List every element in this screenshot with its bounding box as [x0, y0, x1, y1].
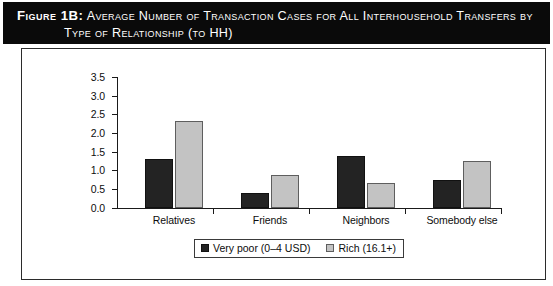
- y-axis-line: [117, 77, 118, 209]
- x-label-somebody-else: Somebody else: [407, 214, 517, 226]
- x-label-friends: Friends: [215, 214, 325, 226]
- chart-frame: 3.5 3.0 2.5 2.0 1.5 1.0 0.5 0.0: [21, 48, 546, 280]
- legend-swatch-icon-rich: [326, 244, 334, 252]
- bar-group-somebody-else: [427, 76, 497, 208]
- bar-group-relatives: [139, 76, 209, 208]
- figure-title-line-2: Type of Relationship (to HH): [17, 25, 542, 42]
- y-tick-2.5: 2.5: [112, 114, 117, 115]
- legend-label-very-poor: Very poor (0–4 USD): [213, 242, 310, 254]
- y-tick-label: 0.5: [91, 183, 105, 195]
- bar-very-poor-friends: [241, 193, 269, 207]
- y-tick-1.5: 1.5: [112, 152, 117, 153]
- x-label-relatives: Relatives: [119, 214, 229, 226]
- y-tick-0.5: 0.5: [112, 189, 117, 190]
- y-tick-0.0: 0.0: [112, 208, 117, 209]
- y-tick-label: 1.5: [91, 146, 105, 158]
- legend-swatch-icon-very-poor: [201, 244, 209, 252]
- bar-group-neighbors: [331, 76, 401, 208]
- bar-group-friends: [235, 76, 305, 208]
- y-tick-label: 2.0: [91, 127, 105, 139]
- y-tick-label: 3.0: [91, 90, 105, 102]
- y-tick-label: 0.0: [91, 202, 105, 214]
- figure-title-banner: Figure 1B: Average Number of Transaction…: [3, 2, 550, 44]
- chart-legend: Very poor (0–4 USD) Rich (16.1+): [194, 239, 404, 258]
- bar-very-poor-somebody-else: [433, 180, 461, 208]
- bar-very-poor-relatives: [145, 159, 173, 208]
- figure-label: Figure 1B:: [17, 8, 83, 23]
- legend-item-very-poor: Very poor (0–4 USD): [201, 242, 310, 254]
- y-tick-3.0: 3.0: [112, 96, 117, 97]
- bar-rich-neighbors: [367, 183, 395, 208]
- figure-container: Figure 1B: Average Number of Transaction…: [0, 0, 553, 286]
- legend-label-rich: Rich (16.1+): [338, 242, 395, 254]
- bar-very-poor-neighbors: [337, 156, 365, 207]
- bar-rich-friends: [271, 175, 299, 207]
- figure-title-line-1: Figure 1B: Average Number of Transaction…: [17, 7, 542, 25]
- legend-item-rich: Rich (16.1+): [326, 242, 395, 254]
- y-tick-label: 3.5: [91, 71, 105, 83]
- plot-area: 3.5 3.0 2.5 2.0 1.5 1.0 0.5 0.0: [117, 77, 502, 209]
- bar-rich-somebody-else: [463, 161, 491, 207]
- y-tick-3.5: 3.5: [112, 77, 117, 78]
- figure-title-text: Average Number of Transaction Cases for …: [87, 9, 533, 23]
- y-tick-label: 2.5: [91, 108, 105, 120]
- x-label-neighbors: Neighbors: [311, 214, 421, 226]
- y-tick-1.0: 1.0: [112, 170, 117, 171]
- y-tick-label: 1.0: [91, 164, 105, 176]
- bar-rich-relatives: [175, 121, 203, 208]
- y-tick-2.0: 2.0: [112, 133, 117, 134]
